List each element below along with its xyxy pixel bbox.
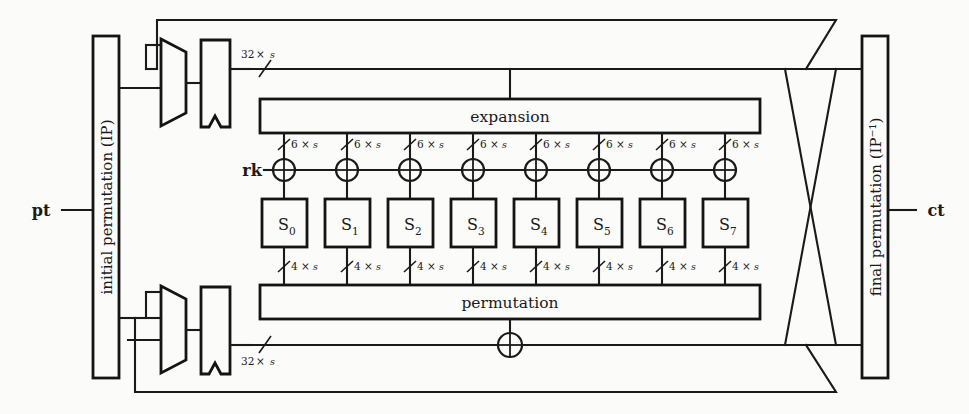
xor-gate-icon — [273, 159, 295, 181]
sbox-bus-times: × — [742, 260, 751, 272]
des-block-diagram: pt initial permutation (IP) 32 × s — [0, 0, 969, 414]
xor-gate-icon — [714, 159, 736, 181]
top-bus-label: 32 × s — [241, 48, 275, 60]
sbox: S 3 — [451, 199, 496, 247]
sbox-bus-unit: s — [376, 261, 381, 272]
sbox-sub: 4 — [541, 225, 548, 237]
exp-bus-count: 6 — [732, 138, 739, 150]
final-permutation-block: final permutation (IP⁻¹) — [862, 36, 888, 378]
expansion-bus-label: 6 × s — [291, 138, 318, 150]
expansion-bus-label: 6 × s — [606, 138, 633, 150]
permutation-block: permutation — [260, 285, 760, 319]
diagram-canvas: pt initial permutation (IP) 32 × s — [0, 0, 969, 414]
exp-bus-times: × — [301, 138, 310, 150]
exp-bus-count: 6 — [480, 138, 487, 150]
bottom-bus-times: × — [256, 355, 265, 367]
sbox-base: S — [278, 215, 289, 234]
sbox-bus-count: 4 — [291, 260, 298, 272]
exp-bus-unit: s — [502, 139, 507, 150]
exp-bus-unit: s — [439, 139, 444, 150]
sbox-bus-count: 4 — [543, 260, 550, 272]
sbox-bus-unit: s — [754, 261, 759, 272]
bottom-bus-label: 32 × s — [241, 355, 275, 367]
sbox-bus-label: 4 × s — [480, 260, 507, 272]
xor-gate-icon — [651, 159, 673, 181]
sbox-bus-unit: s — [439, 261, 444, 272]
xor-gate-bottom-icon — [498, 333, 522, 357]
sbox: S 7 — [703, 199, 748, 247]
exp-bus-times: × — [616, 138, 625, 150]
sbox-base: S — [593, 215, 604, 234]
expansion-bus-label: 6 × s — [417, 138, 444, 150]
sbox-sub: 3 — [478, 225, 485, 237]
sbox-base: S — [341, 215, 352, 234]
exp-bus-times: × — [679, 138, 688, 150]
expansion-bus-label: 6 × s — [354, 138, 381, 150]
sbox: S 5 — [577, 199, 622, 247]
expansion-bus-labels: 6 × s 6 × s 6 × s 6 × s 6 × s 6 × s — [291, 138, 759, 150]
exp-bus-times: × — [553, 138, 562, 150]
sbox-bus-count: 4 — [417, 260, 424, 272]
sbox-bus-count: 4 — [354, 260, 361, 272]
sbox-bus-label: 4 × s — [291, 260, 318, 272]
exp-bus-times: × — [742, 138, 751, 150]
sbox-bus-unit: s — [565, 261, 570, 272]
xor-gate-icon — [462, 159, 484, 181]
exp-bus-unit: s — [628, 139, 633, 150]
sbox-bus-label: 4 × s — [543, 260, 570, 272]
plaintext-label: pt — [32, 201, 51, 220]
xor-gate-icon — [336, 159, 358, 181]
mux-top — [146, 39, 201, 126]
expansion-bus-label: 6 × s — [732, 138, 759, 150]
sbox: S 1 — [325, 199, 370, 247]
sbox-bus-unit: s — [313, 261, 318, 272]
sbox-base: S — [656, 215, 667, 234]
top-bus-times: × — [256, 48, 265, 60]
exp-bus-count: 6 — [417, 138, 424, 150]
sbox-row: S 0 S 1 S 2 S 3 S 4 S 5 S — [262, 199, 748, 247]
expansion-bus-label: 6 × s — [480, 138, 507, 150]
exp-bus-unit: s — [691, 139, 696, 150]
xor-gate-icon — [588, 159, 610, 181]
exp-bus-count: 6 — [291, 138, 298, 150]
bottom-bus-unit: s — [270, 356, 275, 367]
sbox-bus-times: × — [616, 260, 625, 272]
exp-bus-unit: s — [376, 139, 381, 150]
bottom-bus-count: 32 — [241, 355, 254, 367]
sbox-bus-labels: 4 × s 4 × s 4 × s 4 × s 4 × s 4 × s — [291, 260, 759, 272]
exp-bus-count: 6 — [606, 138, 613, 150]
initial-permutation-block: initial permutation (IP) — [93, 36, 119, 378]
top-bus-count: 32 — [241, 48, 254, 60]
initial-permutation-label: initial permutation (IP) — [98, 119, 116, 294]
top-bus-wire — [250, 60, 785, 77]
sbox-bus-label: 4 × s — [354, 260, 381, 272]
sbox-bus-count: 4 — [669, 260, 676, 272]
sbox-base: S — [467, 215, 478, 234]
sbox-bus-times: × — [301, 260, 310, 272]
exp-bus-unit: s — [754, 139, 759, 150]
crossover-wires — [760, 69, 862, 345]
xor-gate-icon — [399, 159, 421, 181]
sbox-base: S — [530, 215, 541, 234]
sbox-sub: 7 — [730, 225, 737, 237]
expansion-block: expansion — [260, 99, 760, 133]
sbox-bus-times: × — [427, 260, 436, 272]
sbox-bus-count: 4 — [480, 260, 487, 272]
sbox: S 6 — [640, 199, 685, 247]
ciphertext-label: ct — [927, 201, 945, 220]
xor-gate-icon — [525, 159, 547, 181]
sbox-bus-unit: s — [502, 261, 507, 272]
sbox-sub: 0 — [289, 225, 296, 237]
permutation-label: permutation — [461, 294, 558, 312]
top-feedback-wire — [157, 20, 836, 69]
sbox-bus-count: 4 — [732, 260, 739, 272]
final-permutation-label: final permutation (IP⁻¹) — [867, 118, 885, 297]
sbox-bus-unit: s — [691, 261, 696, 272]
sbox-bus-times: × — [679, 260, 688, 272]
ip-output-wires — [119, 88, 157, 340]
exp-bus-count: 6 — [543, 138, 550, 150]
sbox-bus-unit: s — [628, 261, 633, 272]
exp-bus-times: × — [427, 138, 436, 150]
xor-to-sbox-wires — [284, 181, 725, 199]
sbox-bus-label: 4 × s — [417, 260, 444, 272]
